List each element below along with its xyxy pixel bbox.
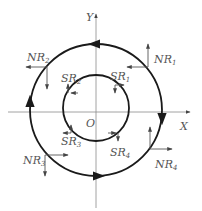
label-nr2: NR2: [26, 51, 50, 65]
nr4-vectors: [150, 127, 172, 149]
origin-label: O: [86, 117, 95, 130]
y-axis-label: Y: [86, 11, 95, 24]
label-nr3: NR3: [22, 154, 46, 168]
label-sr4: SR4: [110, 146, 130, 160]
nr3-vectors: [45, 155, 68, 176]
nr1-vectors: [127, 44, 148, 67]
diagram: Y X O NR1 NR2 NR3 NR4 SR1 SR2 SR3 SR4: [0, 0, 202, 211]
label-nr4: NR4: [154, 158, 177, 172]
label-nr1: NR1: [153, 53, 176, 67]
x-axis-label: X: [179, 120, 189, 133]
label-sr1: SR1: [110, 70, 130, 84]
label-sr2: SR2: [61, 72, 82, 86]
